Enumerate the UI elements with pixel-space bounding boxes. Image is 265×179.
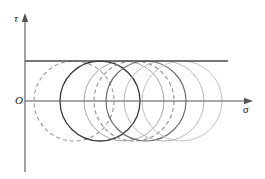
mohr-diagram-canvas <box>0 0 265 179</box>
origin-label: O <box>15 95 23 106</box>
sigma-axis-label: σ <box>243 104 248 115</box>
tau-axis-label: τ <box>14 13 18 24</box>
mohr-circle-figure: τ σ O <box>0 0 265 179</box>
tau-axis-arrowhead <box>22 13 28 22</box>
